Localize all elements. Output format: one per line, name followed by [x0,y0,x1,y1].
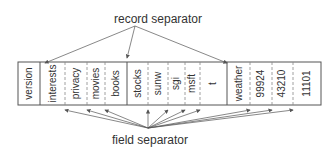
record-separator-arrow [45,26,135,63]
field-label: weather [233,65,244,102]
field-separator-arrow [87,110,148,128]
field-label: 99924 [255,69,266,97]
field-label: books [110,70,121,97]
field-separator-arrow [148,110,293,128]
record-separator-label: record separator [114,12,202,26]
record-separator-arrow [135,26,227,63]
field-label: version [23,67,34,99]
field-separator-arrow [148,110,250,128]
field-separator-arrow [105,110,148,128]
field-label: t [207,82,218,85]
field-separator-arrow [65,110,148,128]
field-label: 43210 [276,69,287,97]
field-label: sunw [152,71,163,95]
field-label: sgi [170,77,181,90]
field-label: stocks [132,69,143,97]
field-separator-label: field separator [112,133,188,147]
record-separator-arrow [127,26,135,58]
field-label: privacy [70,68,81,100]
field-label: interests [47,65,58,103]
field-label: movies [90,68,101,100]
field-label: msft [186,74,197,93]
field-label: 11101 [301,70,312,97]
field-separator-arrow [148,110,200,128]
